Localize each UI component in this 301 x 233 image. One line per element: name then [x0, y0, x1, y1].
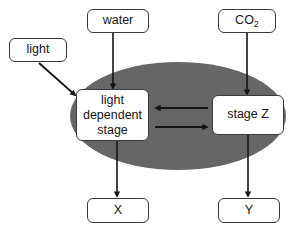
node-x-label: X	[114, 204, 122, 218]
node-light-dependent-stage[interactable]: light dependent stage	[76, 89, 149, 141]
arrow-light-to-light-dependent-stage	[39, 63, 75, 95]
node-light-dependent-stage-label: light dependent stage	[83, 93, 142, 138]
node-co2-base: CO	[235, 13, 254, 27]
node-co2-subscript: 2	[254, 19, 259, 29]
node-x[interactable]: X	[87, 198, 149, 223]
node-water[interactable]: water	[87, 9, 149, 33]
node-water-label: water	[103, 14, 134, 28]
node-co2[interactable]: CO2	[218, 9, 276, 33]
node-co2-label: CO2	[235, 14, 259, 29]
diagram-canvas: water CO2 light light dependent stage st…	[0, 0, 301, 233]
node-light[interactable]: light	[9, 38, 67, 62]
node-stage-z-label: stage Z	[227, 108, 269, 122]
node-y[interactable]: Y	[218, 198, 280, 223]
node-y-label: Y	[245, 204, 253, 218]
node-stage-z[interactable]: stage Z	[212, 95, 284, 135]
node-light-label: light	[27, 43, 50, 57]
